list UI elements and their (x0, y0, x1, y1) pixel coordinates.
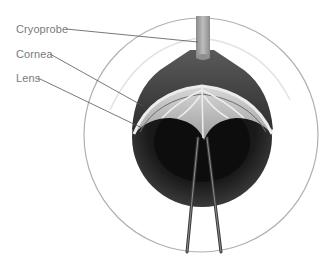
cryoprobe-shaft (196, 16, 210, 58)
eye-diagram (0, 0, 333, 268)
cryoprobe-tip (196, 54, 210, 60)
label-cryoprobe: Cryoprobe (16, 23, 68, 35)
cryoprobe-eye-illustration: Cryoprobe Cornea Lens (0, 0, 333, 268)
label-cornea: Cornea (16, 48, 53, 60)
leader-line-lens (38, 78, 142, 128)
leader-line-cornea (50, 54, 143, 106)
label-lens: Lens (16, 72, 40, 84)
